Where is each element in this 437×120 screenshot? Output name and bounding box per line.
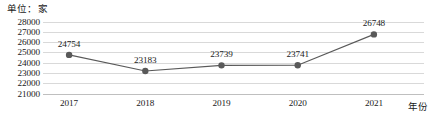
data-point-label: 23183	[134, 55, 156, 65]
x-axis-tick-label: 2021	[365, 98, 383, 108]
x-axis-tick-label: 2019	[213, 98, 231, 108]
x-axis-ticks: 20172018201920202021	[0, 98, 437, 116]
data-point-marker	[218, 62, 224, 68]
data-point-marker	[142, 68, 148, 74]
x-axis-tick-label: 2020	[289, 98, 307, 108]
x-axis-tick-label: 2017	[60, 98, 78, 108]
data-point-label: 23739	[210, 49, 232, 59]
data-point-label: 23741	[286, 49, 308, 59]
data-point-marker	[371, 31, 377, 37]
data-point-label: 26748	[363, 18, 385, 28]
data-point-label: 24754	[58, 39, 80, 49]
data-point-marker	[295, 62, 301, 68]
data-point-marker	[66, 52, 72, 58]
x-axis-tick-label: 2018	[136, 98, 154, 108]
x-axis-title: 年份	[408, 99, 428, 113]
line-chart: 单位：家 28000270002600025000240002300022000…	[0, 0, 437, 120]
